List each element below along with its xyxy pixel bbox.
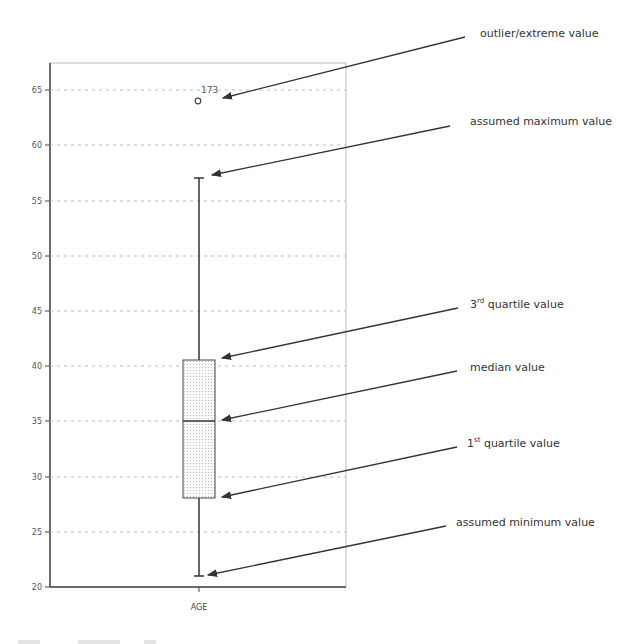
ann-q1: 1st quartile value xyxy=(467,436,560,450)
annotation-labels: outlier/extreme value assumed maximum va… xyxy=(456,27,612,529)
svg-text:65: 65 xyxy=(32,86,42,95)
svg-text:45: 45 xyxy=(32,307,42,316)
boxplot-figure: 20 25 30 35 40 45 50 55 60 65 AGE 173 ou… xyxy=(0,0,641,644)
x-category-label: AGE xyxy=(191,603,208,612)
svg-text:50: 50 xyxy=(32,252,42,261)
svg-text:30: 30 xyxy=(32,473,42,482)
ann-median: median value xyxy=(470,361,545,374)
ann-max: assumed maximum value xyxy=(470,115,612,128)
svg-text:25: 25 xyxy=(32,528,42,537)
outlier-case-label: 173 xyxy=(201,85,218,95)
ann-q3: 3rd quartile value xyxy=(470,297,564,311)
plot-frame xyxy=(50,63,346,587)
ann-min: assumed minimum value xyxy=(456,516,595,529)
annotation-arrows xyxy=(208,37,465,575)
y-tick-labels: 20 25 30 35 40 45 50 55 60 65 xyxy=(32,86,42,592)
svg-text:55: 55 xyxy=(32,197,42,206)
svg-text:40: 40 xyxy=(32,362,42,371)
iqr-box xyxy=(183,360,215,498)
svg-text:35: 35 xyxy=(32,417,42,426)
ann-outlier: outlier/extreme value xyxy=(480,27,599,40)
svg-text:20: 20 xyxy=(32,583,42,592)
outlier-point xyxy=(195,98,201,104)
svg-text:60: 60 xyxy=(32,141,42,150)
cutoff-caption xyxy=(18,640,156,644)
